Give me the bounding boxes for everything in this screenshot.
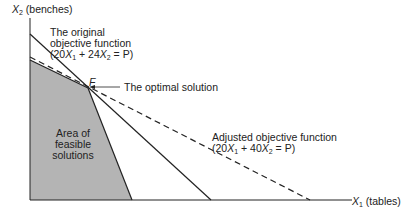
feasible-area-label: Area of feasible solutions: [48, 128, 98, 161]
point-f-label: F: [89, 77, 95, 88]
x-axis-label: X1 (tables): [352, 196, 401, 210]
original-objective-label: The original objective function (20X1 + …: [50, 27, 133, 63]
optimal-solution-label: The optimal solution: [124, 82, 218, 93]
adjusted-objective-label: Adjusted objective function (20X1 + 40X2…: [212, 132, 337, 157]
y-axis-label: X2 (benches): [12, 4, 73, 18]
